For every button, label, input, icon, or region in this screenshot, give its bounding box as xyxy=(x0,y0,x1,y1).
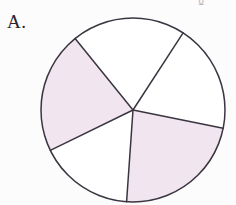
figure-panel: A. g xyxy=(0,0,236,205)
pie-chart-diagram xyxy=(0,0,236,205)
